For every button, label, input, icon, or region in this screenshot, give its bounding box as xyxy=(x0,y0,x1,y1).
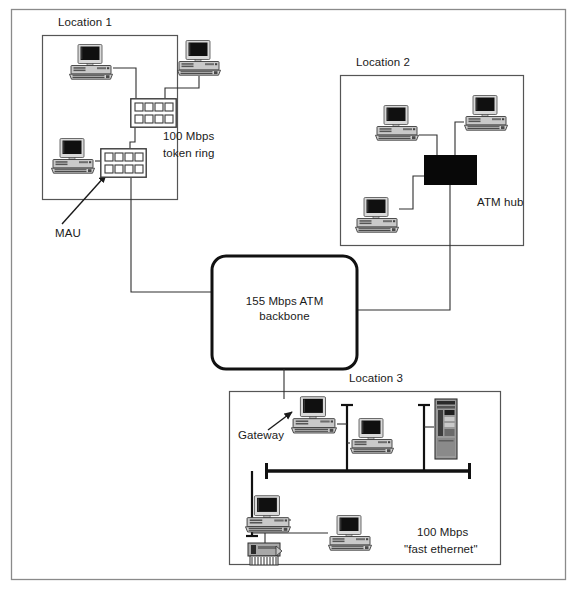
atm-backbone-label-line1: 155 Mbps ATM xyxy=(212,294,357,309)
pc-loc3-mid[interactable] xyxy=(351,419,394,454)
token-ring-label-line2: token ring xyxy=(163,146,215,161)
atm-hub-label: ATM hub xyxy=(477,195,524,210)
location-2-label: Location 2 xyxy=(356,55,410,70)
fast-ethernet-bus xyxy=(266,463,470,479)
server-loc3[interactable] xyxy=(435,399,457,459)
atm-backbone-label-line2: backbone xyxy=(212,309,357,324)
pc-loc1-bottom[interactable] xyxy=(52,139,95,174)
pc-loc2-right[interactable] xyxy=(465,96,508,131)
location-3-label: Location 3 xyxy=(349,371,403,386)
pc-loc2-left[interactable] xyxy=(376,106,419,141)
token-ring-label-line1: 100 Mbps xyxy=(163,129,214,144)
gateway-callout-label: Gateway xyxy=(238,428,284,443)
mau-upper[interactable] xyxy=(131,99,176,127)
fast-ethernet-label-line2: "fast ethernet" xyxy=(404,542,478,557)
printer-loc3[interactable] xyxy=(248,543,282,565)
fast-ethernet-label-line1: 100 Mbps xyxy=(417,525,468,540)
mau-lower[interactable] xyxy=(101,149,146,177)
network-diagram-canvas: Location 1 Location 2 Location 3 155 Mbp… xyxy=(0,0,573,595)
pc-loc1-top-left[interactable] xyxy=(70,45,113,80)
atm-hub-box[interactable] xyxy=(424,155,477,185)
pc-loc3-gateway[interactable] xyxy=(292,397,337,433)
mau-callout-label: MAU xyxy=(55,226,81,241)
pc-loc3-lower-mid[interactable] xyxy=(329,516,372,551)
location-1-label: Location 1 xyxy=(58,15,112,30)
pc-loc1-top-right[interactable] xyxy=(178,41,221,76)
pc-loc2-bottom[interactable] xyxy=(356,198,399,233)
